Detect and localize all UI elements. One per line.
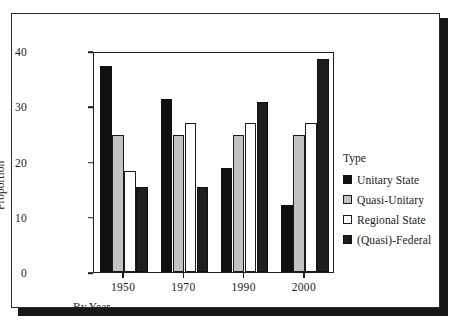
bar-quasi-1990 [233,135,244,272]
y-tick-label-40: 40 [15,46,27,58]
bar-federal-1970 [197,187,208,272]
bar-regional-1990 [245,123,256,272]
legend-entry-unitary: Unitary State [343,173,443,186]
legend-entry-regional: Regional State [343,213,443,226]
bar-federal-1990 [257,102,268,272]
bar-regional-2000 [305,123,316,272]
bar-unitary-1970 [161,99,172,272]
x-tick-mark-1970 [183,273,185,278]
x-tick-label-1990: 1990 [232,281,256,293]
x-tick-mark-1990 [243,273,245,278]
chart-legend: Type Unitary StateQuasi-UnitaryRegional … [343,152,443,253]
x-tick-mark-1950 [122,273,124,278]
x-tick-label-1950: 1950 [111,281,135,293]
bar-unitary-1990 [221,168,232,272]
legend-swatch-quasi-icon [343,195,352,204]
legend-label-federal: (Quasi)-Federal [357,234,431,246]
legend-swatch-federal-icon [343,235,352,244]
y-axis: 010203040 [12,14,93,273]
bar-regional-1970 [185,123,196,272]
x-tick-mark-2000 [303,273,305,278]
legend-label-unitary: Unitary State [357,174,419,186]
legend-entry-quasi: Quasi-Unitary [343,193,443,206]
bar-quasi-1970 [173,135,184,272]
y-tick-label-30: 30 [15,101,27,113]
bar-series-layer [94,53,333,272]
y-tick-mark-40 [88,51,93,53]
legend-label-quasi: Quasi-Unitary [357,194,424,206]
bar-quasi-1950 [112,135,123,272]
y-tick-mark-0 [88,272,93,274]
y-tick-mark-10 [88,217,93,219]
y-tick-label-10: 10 [15,212,27,224]
y-tick-label-0: 0 [21,267,27,279]
legend-title: Type [343,152,443,164]
legend-swatch-regional-icon [343,215,352,224]
y-tick-label-20: 20 [15,157,27,169]
x-tick-label-2000: 2000 [292,281,316,293]
legend-label-regional: Regional State [357,214,426,226]
x-axis-title: By Year [73,301,110,313]
bar-federal-1950 [136,187,147,272]
bar-quasi-2000 [293,135,304,272]
y-tick-mark-20 [88,162,93,164]
legend-entry-federal: (Quasi)-Federal [343,233,443,246]
x-tick-label-1970: 1970 [171,281,195,293]
bar-regional-1950 [124,171,135,272]
bar-unitary-1950 [100,66,111,272]
legend-swatch-unitary-icon [343,175,352,184]
y-axis-title: Proportion [0,161,6,210]
bar-unitary-2000 [281,205,292,272]
bar-federal-2000 [317,59,328,272]
legend-entry-list: Unitary StateQuasi-UnitaryRegional State… [343,173,443,246]
plot-area [93,52,334,273]
figure-border: 010203040 1950197019902000 By Year Propo… [11,13,440,308]
y-tick-mark-30 [88,106,93,108]
figure-root: 010203040 1950197019902000 By Year Propo… [0,0,456,328]
